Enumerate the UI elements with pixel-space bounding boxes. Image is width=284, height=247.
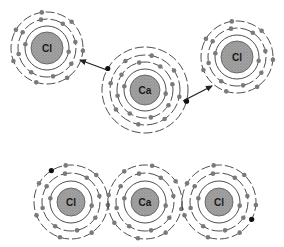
electron: [204, 37, 209, 42]
electron: [14, 28, 19, 33]
electron: [177, 94, 182, 99]
electron: [136, 122, 141, 127]
electron: [48, 196, 53, 201]
electron: [108, 81, 113, 86]
atom-cl-right-bottom: Cl: [182, 163, 258, 240]
electron: [173, 179, 178, 184]
electron: [94, 173, 99, 178]
electron: [112, 220, 117, 225]
electron: [163, 230, 168, 235]
electron: [136, 236, 141, 241]
element-symbol: Cl: [66, 197, 76, 208]
element-symbol: Ca: [139, 197, 152, 208]
electron: [259, 28, 264, 33]
electron: [255, 85, 260, 90]
transferred-electron: [249, 217, 254, 222]
electron: [201, 68, 206, 73]
electron: [37, 181, 42, 186]
electron: [201, 224, 206, 229]
electron: [162, 117, 167, 122]
electron: [185, 181, 190, 186]
electron: [172, 68, 177, 73]
electron: [122, 84, 127, 89]
arrow-right-icon: [183, 86, 212, 101]
electron: [219, 79, 224, 84]
electron: [119, 72, 124, 77]
electron: [211, 163, 216, 168]
electron: [271, 58, 276, 63]
bottom-panel-after-transfer: ClCaCl: [34, 163, 258, 241]
transferred-electron: [105, 66, 110, 71]
transferred-electron: [49, 168, 54, 173]
electron: [256, 59, 261, 64]
electron: [60, 21, 65, 26]
arrow-left-icon: [80, 60, 107, 70]
electron: [137, 171, 142, 176]
electron: [97, 194, 102, 199]
electron: [163, 203, 168, 208]
electron: [188, 206, 193, 211]
electron: [123, 59, 128, 64]
electron: [259, 70, 264, 75]
electron: [53, 224, 58, 229]
electron: [245, 194, 250, 199]
top-panel-before-transfer: ClCaCl: [11, 10, 275, 133]
electron: [210, 39, 215, 44]
electron: [232, 175, 237, 180]
electron: [66, 50, 71, 55]
atom-cl-left-top: Cl: [11, 10, 85, 85]
electron: [115, 94, 120, 99]
electron: [149, 228, 154, 233]
ionic-bond-diagram: ClCaCl ClCaCl: [0, 0, 284, 247]
electron: [58, 235, 63, 240]
electron: [242, 173, 247, 178]
electron: [223, 228, 228, 233]
element-symbol: Ca: [139, 85, 152, 96]
electron: [40, 206, 45, 211]
atom-cl-right-top: Cl: [201, 19, 275, 94]
electron: [170, 82, 175, 87]
electron: [229, 26, 234, 31]
electron: [106, 193, 111, 198]
electron: [51, 74, 56, 79]
atom-ca-center-bottom: Ca: [106, 163, 183, 240]
electron: [16, 52, 21, 57]
electron: [237, 203, 242, 208]
electron: [69, 19, 74, 24]
electron: [65, 76, 70, 81]
electron: [230, 19, 235, 24]
electron: [81, 49, 86, 54]
electron: [29, 70, 34, 75]
electron: [241, 83, 246, 88]
electron: [167, 215, 172, 220]
electron: [254, 203, 259, 208]
electron: [150, 163, 155, 168]
electron: [206, 235, 211, 240]
electron: [118, 184, 123, 189]
element-symbol: Cl: [214, 197, 224, 208]
electron: [114, 107, 119, 112]
electron: [182, 213, 187, 218]
electron: [163, 91, 168, 96]
electron: [40, 10, 45, 15]
electron: [75, 228, 80, 233]
electron: [34, 80, 39, 85]
electron: [158, 64, 163, 69]
electron: [63, 171, 68, 176]
electron: [196, 196, 201, 201]
electron: [127, 111, 132, 116]
electron: [73, 40, 78, 45]
electron: [149, 53, 154, 58]
electron: [241, 215, 246, 220]
electron: [263, 49, 268, 54]
electron: [114, 206, 119, 211]
electron: [84, 175, 89, 180]
electron: [11, 59, 16, 64]
electron: [237, 230, 242, 235]
atom-cl-left-bottom: Cl: [34, 163, 110, 240]
electron: [39, 17, 44, 22]
electron: [137, 60, 142, 65]
electron: [69, 61, 74, 66]
electron: [93, 215, 98, 220]
atom-ca-center-top: Ca: [102, 47, 189, 133]
